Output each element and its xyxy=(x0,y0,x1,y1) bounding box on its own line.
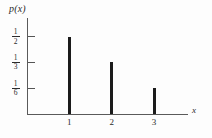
y-tick-mark-half xyxy=(28,36,35,37)
fraction-numerator: 1 xyxy=(7,80,24,88)
y-tick-label-half: 1 2 xyxy=(7,28,24,45)
y-tick-mark-third xyxy=(28,62,35,63)
impulse-bar xyxy=(153,88,156,114)
fraction-denominator: 3 xyxy=(7,63,24,71)
probability-mass-function-figure: p(x) x 1 2 1 3 1 6 1 2 3 xyxy=(0,0,212,138)
y-axis-line xyxy=(27,18,28,115)
x-tick-label-1: 1 xyxy=(62,117,76,127)
x-axis-label: x xyxy=(192,105,196,115)
impulse-bar xyxy=(110,62,113,114)
fraction-numerator: 1 xyxy=(7,28,24,36)
x-tick-label-3: 3 xyxy=(147,117,161,127)
y-tick-mark-sixth xyxy=(28,88,35,89)
x-tick-label-2: 2 xyxy=(105,117,119,127)
fraction-denominator: 2 xyxy=(7,38,24,46)
fraction-denominator: 6 xyxy=(7,89,24,97)
y-tick-label-third: 1 3 xyxy=(7,54,24,71)
impulse-bar xyxy=(68,37,71,114)
fraction-numerator: 1 xyxy=(7,54,24,62)
x-axis-line xyxy=(27,114,188,115)
y-tick-label-sixth: 1 6 xyxy=(7,80,24,97)
y-axis-label: p(x) xyxy=(9,3,26,14)
